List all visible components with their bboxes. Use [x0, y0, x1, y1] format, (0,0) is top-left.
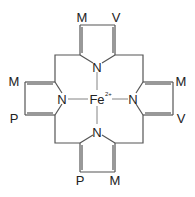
- right-substituent-methyl: M: [176, 74, 187, 89]
- top-substituent-methyl: M: [77, 10, 88, 25]
- heme-structure-diagram: N N N N Fe 2+ M V M P M V P M: [0, 0, 195, 197]
- bottom-substituent-methyl: M: [110, 173, 121, 188]
- left-substituent-propionate: P: [10, 111, 19, 126]
- left-substituent-methyl: M: [9, 74, 20, 89]
- nitrogen-bottom: N: [92, 125, 101, 140]
- nitrogen-top: N: [92, 60, 101, 75]
- nitrogen-left: N: [57, 92, 66, 107]
- right-pyrrole-ring: [136, 82, 173, 115]
- right-substituent-vinyl: V: [177, 111, 186, 126]
- bottom-substituent-propionate: P: [76, 173, 85, 188]
- top-pyrrole-ring: [80, 25, 115, 63]
- iron-label: Fe: [89, 92, 104, 107]
- bottom-pyrrole-ring: [80, 135, 115, 172]
- nitrogen-right: N: [128, 92, 137, 107]
- iron-charge: 2+: [105, 91, 112, 97]
- top-substituent-vinyl: V: [112, 10, 121, 25]
